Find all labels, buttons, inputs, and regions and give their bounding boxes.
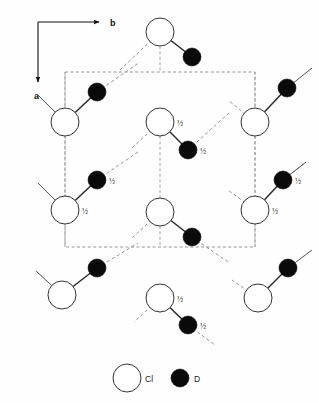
cl-atom (51, 108, 79, 136)
cl-atom (48, 281, 76, 309)
crystal-structure-diagram: ba ½½½½½½½½ ClD (0, 0, 319, 403)
legend-d-label: D (194, 374, 200, 384)
cl-atom (241, 108, 269, 136)
cl-atom (244, 284, 272, 312)
b-axis-label: b (110, 18, 116, 28)
d-atom (274, 171, 292, 189)
d-atom (179, 316, 197, 334)
dashed-bond-lines (97, 32, 305, 345)
fraction-label: ½ (200, 322, 206, 331)
fraction-label: ½ (295, 177, 301, 186)
fraction-label: ½ (272, 207, 278, 216)
d-atom (179, 141, 197, 159)
cl-atom (146, 284, 174, 312)
fraction-label: ½ (200, 147, 206, 156)
fraction-label: ½ (177, 295, 183, 304)
legend: ClD (113, 364, 200, 392)
d-atom (278, 79, 296, 97)
d-atom (183, 48, 201, 66)
d-atom (279, 259, 297, 277)
fraction-label: ½ (109, 177, 115, 186)
d-atom (88, 171, 106, 189)
cl-atom (241, 196, 269, 224)
legend-cl-label: Cl (145, 374, 153, 384)
crystal-structure-figure: ba ½½½½½½½½ ClD (0, 0, 319, 403)
cl-atom (146, 198, 174, 226)
legend-d-icon (171, 369, 189, 387)
cl-atom (146, 108, 174, 136)
cl-atom (146, 18, 174, 46)
cl-atom (51, 196, 79, 224)
d-atom (88, 83, 106, 101)
d-atom (88, 259, 106, 277)
fraction-label: ½ (82, 207, 88, 216)
d-atom (183, 228, 201, 246)
fraction-label: ½ (177, 119, 183, 128)
legend-cl-icon (113, 364, 141, 392)
